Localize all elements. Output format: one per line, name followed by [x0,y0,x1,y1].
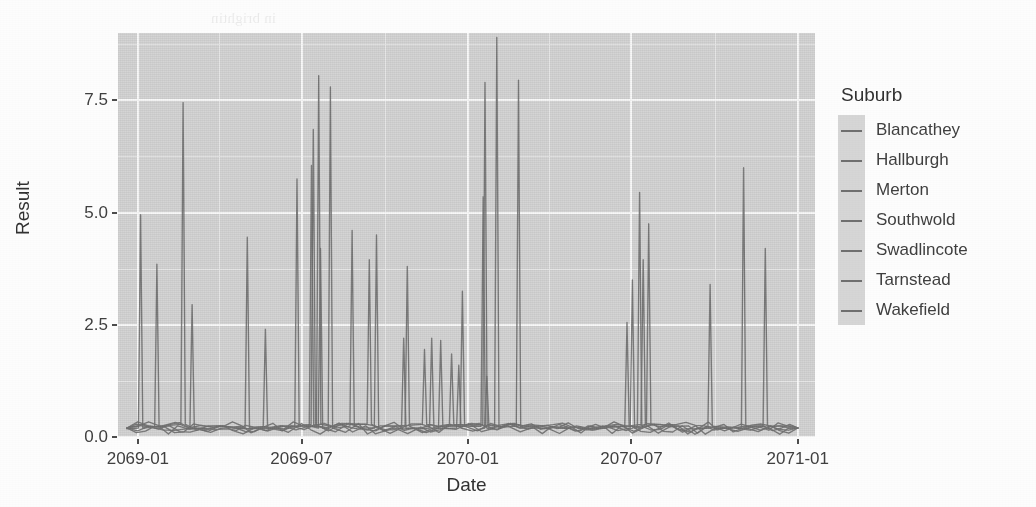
plot-panel [118,33,815,437]
x-axis-tick-label: 2071-01 [767,449,829,469]
x-axis-tick-mark [137,439,139,444]
legend-key-line-icon [838,265,865,295]
x-axis-tick-mark [467,439,469,444]
legend: Suburb BlancatheyHallburghMertonSouthwol… [838,84,968,325]
y-axis-tick-mark [112,436,117,438]
x-axis-tick-label: 2070-01 [437,449,499,469]
legend-title: Suburb [841,84,968,106]
x-axis-tick-mark [797,439,799,444]
ggplot-chart: 0.02.55.07.5 2069-012069-072070-012070-0… [0,0,1036,507]
x-axis-title: Date [118,474,815,496]
y-axis-tick-mark [112,99,117,101]
x-axis-tick-label: 2069-07 [270,449,332,469]
legend-item-hallburgh[interactable]: Hallburgh [838,145,968,175]
series-line [127,76,798,434]
series-line [127,130,798,434]
legend-item-tarnstead[interactable]: Tarnstead [838,265,968,295]
legend-item-southwold[interactable]: Southwold [838,205,968,235]
legend-item-label: Southwold [876,210,955,230]
x-axis-tick-mark [630,439,632,444]
x-axis-tick-mark [301,439,303,444]
x-axis-tick-label: 2069-01 [107,449,169,469]
legend-key-line-icon [838,175,865,205]
legend-key-line-icon [838,205,865,235]
series-layer [118,33,815,437]
y-axis-tick-mark [112,324,117,326]
legend-item-swadlincote[interactable]: Swadlincote [838,235,968,265]
x-axis-tick-label: 2070-07 [600,449,662,469]
series-line [127,38,798,435]
legend-items: BlancatheyHallburghMertonSouthwoldSwadli… [838,115,968,325]
legend-item-label: Swadlincote [876,240,968,260]
legend-item-blancathey[interactable]: Blancathey [838,115,968,145]
legend-item-wakefield[interactable]: Wakefield [838,295,968,325]
legend-item-label: Hallburgh [876,150,949,170]
legend-item-label: Merton [876,180,929,200]
legend-item-merton[interactable]: Merton [838,175,968,205]
y-axis-title: Result [12,181,34,235]
legend-key-line-icon [838,145,865,175]
y-axis-tick-label: 0.0 [4,427,108,447]
legend-item-label: Blancathey [876,120,960,140]
y-axis-tick-label: 2.5 [4,315,108,335]
legend-item-label: Wakefield [876,300,950,320]
legend-key-line-icon [838,295,865,325]
chart-page: in brightin a reading s ent of ut ro es … [0,0,1036,507]
legend-key-line-icon [838,235,865,265]
legend-item-label: Tarnstead [876,270,951,290]
series-line [127,235,798,434]
series-line [127,80,798,434]
legend-key-line-icon [838,115,865,145]
y-axis-tick-label: 7.5 [4,90,108,110]
y-axis-tick-mark [112,212,117,214]
